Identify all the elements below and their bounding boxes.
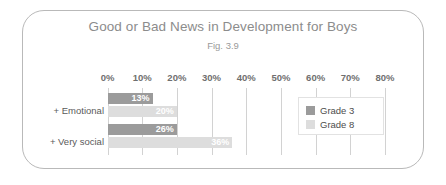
category-label-row-1: + Very social xyxy=(8,136,104,150)
bar-value-label: 26% xyxy=(156,124,175,135)
chart-figure-number: Fig. 3.9 xyxy=(0,40,446,51)
legend-item-grade-3: Grade 3 xyxy=(306,103,383,117)
bar: 36% xyxy=(108,137,233,148)
x-axis-tick-labels: 0%10%20%30%40%50%60%70%80% xyxy=(0,72,446,86)
legend-swatch-icon xyxy=(306,106,315,115)
category-label: + Emotional xyxy=(12,105,104,116)
chart-title: Good or Bad News in Development for Boys xyxy=(0,19,446,34)
legend-label: Grade 3 xyxy=(320,105,354,116)
gridline xyxy=(385,88,386,155)
chart-legend: Grade 3 Grade 8 xyxy=(298,97,384,135)
legend-swatch-icon xyxy=(306,120,315,129)
category-label-row-0: + Emotional xyxy=(8,105,104,119)
gridline xyxy=(281,88,282,155)
x-tick-label: 80% xyxy=(365,72,405,83)
legend-item-grade-8: Grade 8 xyxy=(306,117,383,131)
legend-label: Grade 8 xyxy=(320,119,354,130)
bar: 20% xyxy=(108,106,177,117)
bar: 26% xyxy=(108,124,177,135)
category-label: + Very social xyxy=(12,136,104,147)
gridline xyxy=(246,88,247,155)
bar-value-label: 20% xyxy=(156,106,175,117)
bar-value-label: 36% xyxy=(211,137,230,148)
bar-value-label: 13% xyxy=(132,93,151,104)
bar: 13% xyxy=(108,93,153,104)
